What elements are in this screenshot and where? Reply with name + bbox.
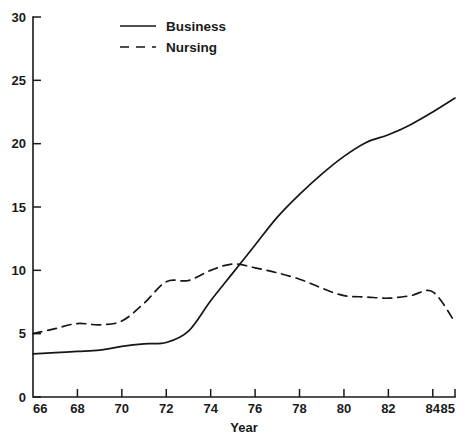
data-series-group — [33, 98, 455, 354]
x-tick-label-74: 74 — [203, 401, 218, 416]
y-tick-label-20: 20 — [12, 136, 26, 151]
x-tick-label-85: 85 — [441, 401, 455, 416]
x-tick-label-72: 72 — [159, 401, 173, 416]
x-tick-label-68: 68 — [70, 401, 84, 416]
legend-label-nursing: Nursing — [166, 40, 217, 55]
series-line-nursing — [33, 264, 455, 334]
x-tick-label-76: 76 — [248, 401, 262, 416]
x-axis-title: Year — [230, 420, 257, 435]
series-line-business — [33, 98, 455, 354]
axes-group — [33, 17, 455, 397]
x-tick-label-78: 78 — [292, 401, 306, 416]
y-tick-label-15: 15 — [12, 200, 26, 215]
x-tick-label-66: 66 — [33, 401, 47, 416]
legend-label-business: Business — [166, 19, 226, 34]
y-tick-label-10: 10 — [12, 263, 26, 278]
y-tick-label-5: 5 — [19, 326, 26, 341]
axis-tick-labels-group: 0510152025306668707274767880828485 — [12, 10, 455, 417]
line-chart: 0510152025306668707274767880828485 Busin… — [0, 0, 473, 446]
chart-legend: BusinessNursing — [120, 19, 226, 55]
x-tick-label-84: 84 — [426, 401, 441, 416]
y-tick-label-30: 30 — [12, 10, 26, 25]
axis-lines — [33, 17, 455, 397]
x-tick-label-82: 82 — [381, 401, 395, 416]
x-tick-label-70: 70 — [115, 401, 129, 416]
y-tick-label-25: 25 — [12, 73, 26, 88]
axis-ticks-group — [33, 17, 455, 397]
chart-container: 0510152025306668707274767880828485 Busin… — [0, 0, 473, 446]
x-tick-label-80: 80 — [337, 401, 351, 416]
y-tick-label-0: 0 — [19, 390, 26, 405]
